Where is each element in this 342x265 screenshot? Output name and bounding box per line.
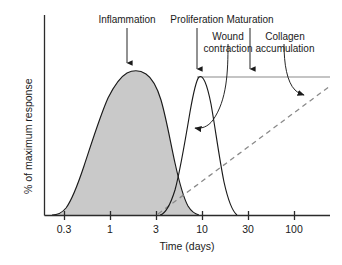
x-tick-label-2: 3 — [153, 223, 159, 235]
x-axis-title: Time (days) — [159, 240, 214, 252]
y-axis-title: % of maximum response — [22, 78, 34, 194]
x-tick-label-3: 10 — [196, 223, 208, 235]
annotation-label-proliferation: Proliferation — [170, 14, 223, 26]
x-tick-label-0: 0.3 — [57, 223, 72, 235]
annotation-label-wound-contraction-line1: Wound — [212, 31, 244, 43]
x-tick-label-4: 30 — [242, 223, 254, 235]
annotation-label-collagen-accumulation-line2: accumulation — [256, 43, 315, 55]
x-tick-label-5: 100 — [285, 223, 303, 235]
x-tick-label-1: 1 — [107, 223, 113, 235]
annotation-label-wound-contraction-line2: contraction — [204, 43, 253, 55]
annotation-label-collagen-accumulation-line1: Collagen — [265, 31, 304, 43]
wound-healing-phases-chart: Inflammation Proliferation Maturation Wo… — [0, 0, 342, 265]
annotation-label-inflammation: Inflammation — [98, 14, 155, 26]
wound-contraction-arrow — [195, 44, 228, 128]
annotation-label-maturation: Maturation — [226, 14, 273, 26]
